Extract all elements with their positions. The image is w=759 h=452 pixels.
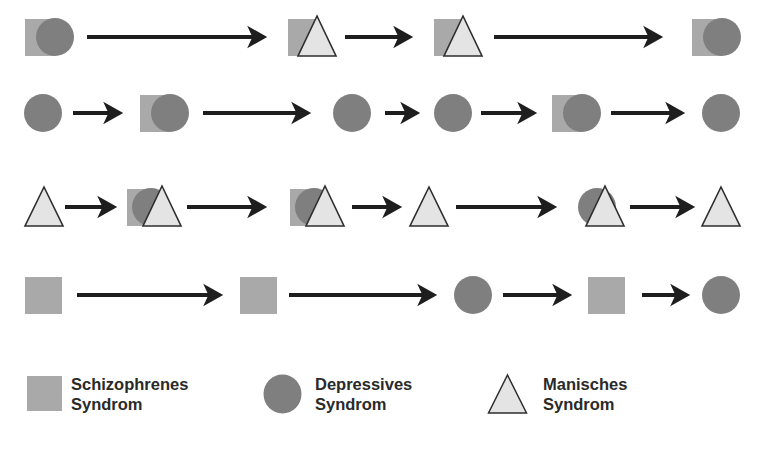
legend-item-schizophrenic: Schizophrenes Syndrom	[27, 374, 188, 414]
course-rows	[24, 16, 741, 314]
episode-node	[24, 94, 62, 132]
episode-node	[702, 94, 740, 132]
square-icon	[25, 277, 62, 314]
course-row-4	[25, 276, 740, 314]
episode-node	[240, 277, 277, 314]
legend-label-line1: Manisches	[543, 374, 627, 394]
episode-node	[552, 94, 601, 132]
episode-node	[434, 94, 472, 132]
circle-icon	[333, 94, 371, 132]
legend-label-line2: Syndrom	[543, 394, 627, 414]
circle-icon	[434, 94, 472, 132]
episode-node	[692, 18, 741, 56]
circle-icon	[702, 94, 740, 132]
legend-item-depressive: Depressives Syndrom	[263, 374, 412, 414]
triangle-icon	[487, 373, 529, 415]
square-icon	[27, 376, 63, 412]
course-row-3	[25, 186, 740, 226]
episode-node	[25, 187, 63, 226]
episode-node	[333, 94, 371, 132]
episode-node	[140, 94, 189, 132]
legend-label-line2: Syndrom	[71, 394, 188, 414]
episode-node	[127, 186, 181, 226]
triangle-icon	[410, 187, 448, 226]
episode-node	[410, 187, 448, 226]
episode-node	[25, 277, 62, 314]
episode-node	[578, 186, 624, 226]
circle-icon	[36, 18, 74, 56]
square-icon	[240, 277, 277, 314]
episode-node	[702, 276, 740, 314]
episode-node	[25, 18, 74, 56]
episode-node	[702, 187, 740, 226]
episode-node	[454, 276, 492, 314]
circle-icon	[563, 94, 601, 132]
legend-item-manic: Manisches Syndrom	[487, 371, 627, 415]
triangle-icon	[702, 187, 740, 226]
course-row-1	[25, 16, 741, 56]
legend-label-line1: Schizophrenes	[71, 374, 188, 394]
episode-node	[434, 16, 482, 56]
triangle-icon	[25, 187, 63, 226]
circle-icon	[454, 276, 492, 314]
episode-node	[588, 277, 625, 314]
legend-label-line1: Depressives	[315, 374, 412, 394]
circle-icon	[24, 94, 62, 132]
episode-node	[290, 186, 344, 226]
legend-label-line2: Syndrom	[315, 394, 412, 414]
circle-icon	[151, 94, 189, 132]
circle-icon	[702, 276, 740, 314]
square-icon	[588, 277, 625, 314]
episode-node	[288, 16, 336, 56]
course-row-2	[24, 94, 740, 132]
circle-icon	[703, 18, 741, 56]
circle-icon	[263, 374, 303, 414]
